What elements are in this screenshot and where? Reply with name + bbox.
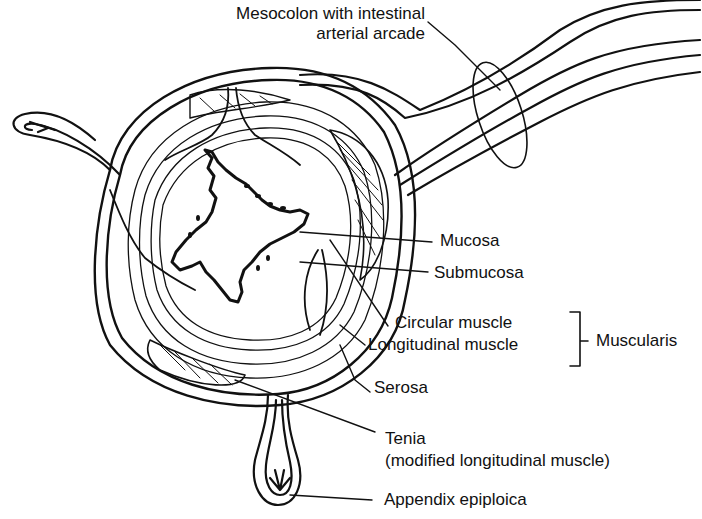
label-appendix-epiploica: Appendix epiploica (384, 490, 527, 510)
label-longitudinal-muscle: Longitudinal muscle (368, 335, 518, 355)
label-tenia: Tenia (385, 429, 426, 449)
mucosa-glands (188, 184, 286, 271)
tenia-hatching (148, 90, 388, 385)
mucosa-lumen (172, 150, 308, 302)
label-muscularis: Muscularis (596, 331, 677, 351)
colon-cross-section-illustration (0, 0, 702, 519)
label-submucosa: Submucosa (434, 263, 524, 283)
label-tenia-note: (modified longitudinal muscle) (385, 451, 610, 471)
label-mesocolon-line2: arterial arcade (185, 24, 425, 44)
label-mesocolon-line1: Mesocolon with intestinal (185, 4, 425, 24)
label-mucosa: Mucosa (440, 231, 500, 251)
muscle-rings (128, 102, 383, 378)
bottom-appendix (254, 395, 300, 505)
label-serosa: Serosa (374, 378, 428, 398)
label-circular-muscle: Circular muscle (395, 313, 512, 333)
left-appendix (14, 113, 120, 175)
